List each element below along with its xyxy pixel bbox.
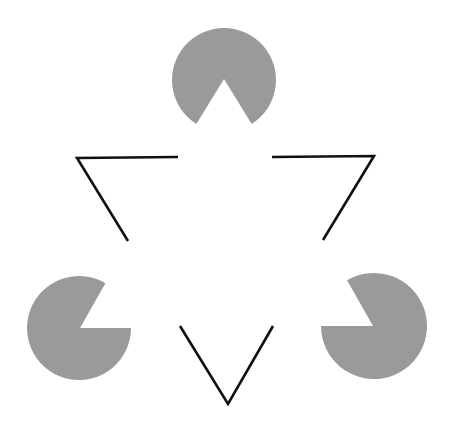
kanizsa-figure <box>0 0 462 438</box>
